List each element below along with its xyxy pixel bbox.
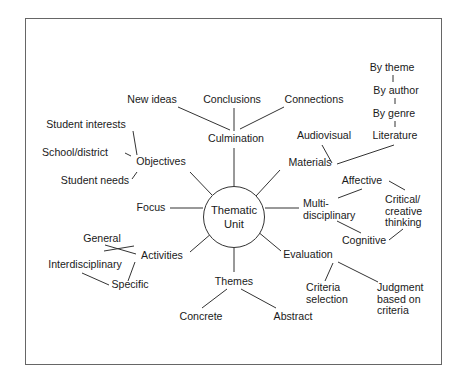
- criteria-line1: Criteria: [306, 282, 348, 294]
- node-focus: Focus: [137, 202, 166, 214]
- node-culmination: Culmination: [208, 133, 264, 145]
- line-culmination-connections: [240, 107, 284, 129]
- node-by-author: By author: [373, 85, 418, 97]
- node-judgment-based-on-criteria: Judgment based on criteria: [377, 282, 424, 317]
- node-student-needs: Student needs: [61, 175, 129, 187]
- line-affective-critical: [389, 181, 405, 190]
- multi-line1: Multi-: [303, 198, 355, 210]
- node-activities: Activities: [141, 250, 183, 262]
- node-general: General: [83, 233, 121, 245]
- node-school-district: School/district: [42, 147, 108, 159]
- node-cognitive: Cognitive: [342, 235, 386, 247]
- line-culmination-newideas: [178, 107, 230, 130]
- judgment-line3: criteria: [377, 305, 424, 317]
- node-evaluation: Evaluation: [283, 249, 332, 261]
- critical-line1: Critical/: [385, 194, 422, 206]
- node-concrete: Concrete: [180, 311, 223, 323]
- node-new-ideas: New ideas: [127, 94, 176, 106]
- line-interdisc-specific: [82, 273, 109, 285]
- criteria-line2: selection: [306, 293, 348, 305]
- node-affective: Affective: [342, 175, 382, 187]
- node-literature: Literature: [373, 130, 418, 142]
- node-materials: Materials: [289, 157, 332, 169]
- node-objectives: Objectives: [136, 156, 185, 168]
- judgment-line1: Judgment: [377, 282, 424, 294]
- node-criteria-selection: Criteria selection: [306, 282, 348, 305]
- hub-line1: Thematic: [211, 203, 257, 217]
- line-eval-criteria: [325, 263, 333, 281]
- line-themes-abstract: [241, 289, 276, 308]
- node-audiovisual: Audiovisual: [297, 130, 351, 142]
- node-connections: Connections: [285, 94, 344, 106]
- thematic-unit-label: Thematic Unit: [211, 203, 257, 231]
- node-conclusions: Conclusions: [203, 94, 261, 106]
- line-themes-concrete: [202, 289, 227, 308]
- line-objectives-school: [125, 153, 131, 156]
- line-hub-materials: [256, 170, 280, 196]
- line-multi-cognitive: [337, 221, 361, 233]
- node-by-theme: By theme: [370, 62, 415, 74]
- node-critical-creative-thinking: Critical/ creative thinking: [385, 194, 422, 229]
- line-hub-objectives: [190, 172, 212, 195]
- multi-line2: disciplinary: [303, 209, 355, 221]
- line-eval-judgment: [338, 262, 378, 282]
- line-materials-literature: [337, 145, 394, 164]
- line-cognitive-critical: [389, 229, 403, 240]
- node-student-interests: Student interests: [46, 119, 126, 131]
- node-by-genre: By genre: [373, 108, 415, 120]
- node-multidisciplinary: Multi- disciplinary: [303, 198, 355, 221]
- critical-line3: thinking: [385, 217, 422, 229]
- line-objectives-interests: [133, 131, 137, 155]
- node-themes: Themes: [215, 276, 253, 288]
- line-objectives-needs: [132, 172, 137, 179]
- node-interdisciplinary: Interdisciplinary: [48, 259, 122, 271]
- hub-line2: Unit: [211, 217, 257, 231]
- line-general-interdisc: [104, 246, 134, 251]
- node-abstract: Abstract: [274, 311, 313, 323]
- node-specific: Specific: [111, 279, 148, 291]
- line-hub-evaluation: [257, 231, 281, 251]
